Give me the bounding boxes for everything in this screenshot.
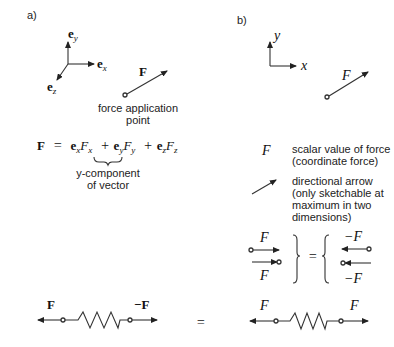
panel-b-label: b) bbox=[237, 14, 247, 26]
force-equivalence: F F = −F −F bbox=[249, 229, 371, 286]
spring-b: F F bbox=[250, 298, 368, 329]
force-arrow bbox=[127, 71, 167, 94]
legend: F scalar value of force (coordinate forc… bbox=[252, 143, 390, 223]
vector-equation: F = exFx + eyFy + ezFz y-component of ve… bbox=[37, 136, 178, 191]
legend-scalar-symbol: F bbox=[261, 143, 271, 158]
ey-label: ey bbox=[68, 26, 78, 43]
equation-text: F = exFx + eyFy + ezFz bbox=[37, 136, 178, 156]
force-label: F bbox=[139, 64, 147, 79]
equiv-left-bottom-node-icon bbox=[277, 260, 281, 264]
panel-a: a) ey ex ez F force application point F … bbox=[27, 9, 178, 328]
equiv-right-bottom-label: −F bbox=[344, 271, 362, 286]
spring-b-left-node-icon bbox=[274, 319, 278, 323]
ez-label: ez bbox=[47, 79, 57, 96]
application-point-icon bbox=[123, 93, 127, 97]
xy-axes: y x bbox=[270, 28, 308, 73]
force-label-b: F bbox=[341, 68, 351, 83]
brace-caption-line-2: of vector bbox=[87, 179, 130, 191]
panel-b: b) y x F F scalar value of force (coordi… bbox=[237, 14, 390, 329]
spring-a: F −F bbox=[38, 297, 157, 328]
spring-left-node-icon bbox=[61, 318, 65, 322]
legend-arrow-line-1: directional arrow bbox=[292, 175, 373, 187]
equiv-left-top-label: F bbox=[259, 230, 269, 245]
legend-arrow-line-4: dimensions) bbox=[292, 211, 351, 223]
panel-a-label: a) bbox=[27, 9, 37, 21]
equiv-right-top-label: −F bbox=[344, 229, 362, 244]
legend-arrow-line-2: (only sketchable at bbox=[292, 187, 384, 199]
legend-arrow-line-3: maximum in two bbox=[292, 199, 371, 211]
application-point-b-icon bbox=[325, 95, 329, 99]
legend-scalar-line-2: (coordinate force) bbox=[292, 155, 378, 167]
equiv-left-bottom-label: F bbox=[259, 268, 269, 283]
equiv-right-bottom-node-icon bbox=[341, 261, 345, 265]
spring-right-label: −F bbox=[134, 297, 149, 312]
middle-equals: = bbox=[196, 315, 205, 330]
ez-axis-arrow bbox=[57, 64, 68, 80]
spring-b-right-label: F bbox=[349, 298, 359, 313]
unit-vector-axes: ey ex ez bbox=[47, 26, 107, 96]
spring-b-left-label: F bbox=[259, 298, 269, 313]
brace-caption-line-1: y-component bbox=[76, 167, 140, 179]
underbrace-icon bbox=[94, 157, 122, 165]
spring-b-right-node-icon bbox=[339, 319, 343, 323]
ex-label: ex bbox=[97, 56, 107, 73]
caption-line-1: force application bbox=[98, 102, 178, 114]
equiv-equals: = bbox=[308, 249, 317, 264]
spring-left-label: F bbox=[47, 297, 55, 312]
equiv-left-top-node-icon bbox=[249, 248, 253, 252]
directional-arrow-icon bbox=[252, 180, 276, 194]
force-vector-b: F bbox=[325, 68, 368, 99]
spring-zigzag-icon bbox=[65, 312, 128, 328]
force-vector-a: F force application point bbox=[98, 64, 178, 126]
caption-line-2: point bbox=[126, 114, 150, 126]
equiv-right-top-node-icon bbox=[367, 247, 371, 251]
left-brace-icon bbox=[322, 235, 329, 283]
force-notation-diagram: a) ey ex ez F force application point F … bbox=[0, 0, 394, 347]
spring-b-zigzag-icon bbox=[278, 313, 339, 329]
spring-right-node-icon bbox=[128, 318, 132, 322]
y-axis-label: y bbox=[272, 28, 281, 43]
x-axis-label: x bbox=[300, 58, 308, 73]
legend-scalar-line-1: scalar value of force bbox=[292, 143, 390, 155]
right-brace-icon bbox=[293, 235, 300, 283]
